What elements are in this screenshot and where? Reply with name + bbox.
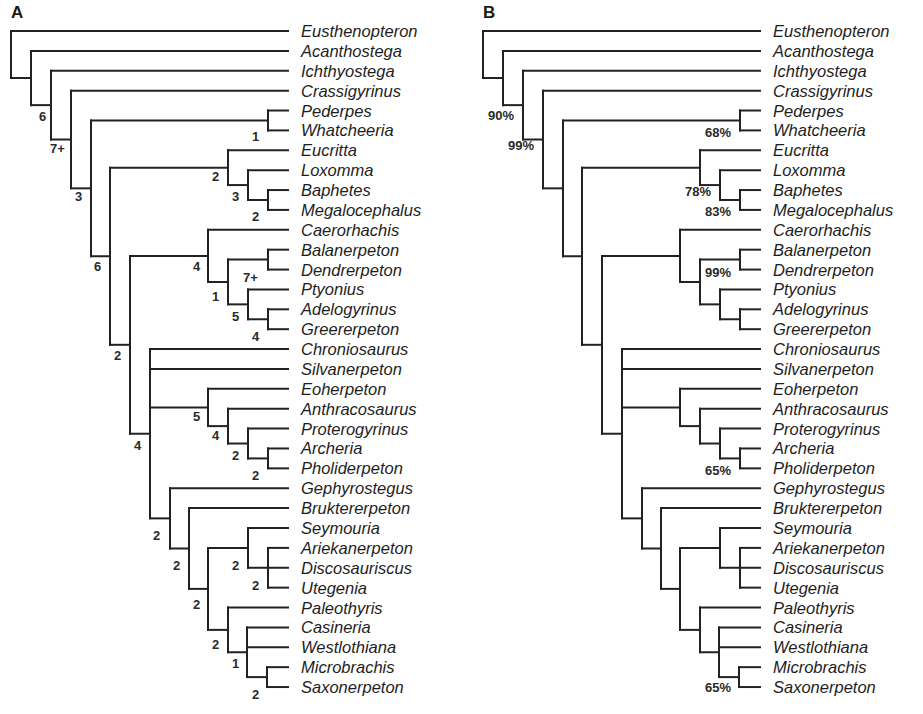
taxon-label: Discosauriscus — [301, 559, 412, 577]
taxon-label: Eucritta — [301, 141, 357, 159]
taxon-label: Westlothiana — [773, 638, 868, 656]
taxon-label: Baphetes — [773, 181, 843, 199]
taxon-label: Dendrerpeton — [773, 261, 874, 279]
taxon-label: Greererpeton — [301, 320, 399, 338]
taxon-label: Paleothyris — [773, 599, 855, 617]
taxon-label: Loxomma — [301, 161, 373, 179]
taxon-label: Silvanerpeton — [301, 360, 402, 378]
taxon-label: Ariekanerpeton — [300, 539, 413, 557]
taxon-label: Discosauriscus — [773, 559, 884, 577]
taxon-label: Casineria — [773, 618, 843, 636]
taxon-label: Caerorhachis — [301, 221, 399, 239]
phylogeny-figure: AEusthenopteronAcanthostegaIchthyostegaC… — [0, 0, 923, 714]
bremer-support-label: 2 — [252, 209, 259, 224]
support-values: 90%99%68%78%83%99%65%65% — [488, 108, 731, 695]
taxon-label: Eusthenopteron — [301, 22, 418, 40]
taxon-label: Pederpes — [773, 102, 844, 120]
bremer-support-label: 2 — [252, 468, 259, 483]
bremer-support-label: 7+ — [50, 141, 65, 156]
bremer-support-label: 2 — [173, 558, 180, 573]
bremer-support-label: 2 — [212, 637, 219, 652]
taxon-label: Adelogyrinus — [772, 300, 868, 318]
taxon-label: Ptyonius — [773, 280, 836, 298]
bremer-support-label: 3 — [232, 189, 239, 204]
panel-letter: B — [483, 3, 495, 22]
bremer-support-label: 4 — [134, 438, 142, 453]
bremer-support-label: 5 — [193, 409, 200, 424]
taxon-label: Archeria — [772, 439, 834, 457]
bremer-support-label: 2 — [252, 687, 259, 702]
taxon-label: Paleothyris — [301, 599, 383, 617]
taxon-label: Pederpes — [301, 102, 372, 120]
taxon-label: Anthracosaurus — [300, 400, 417, 418]
taxon-label: Seymouria — [301, 519, 380, 537]
bremer-support-label: 1 — [232, 656, 239, 671]
taxon-label: Chroniosaurus — [773, 340, 880, 358]
taxon-label: Ptyonius — [301, 280, 364, 298]
taxon-label: Seymouria — [773, 519, 852, 537]
bremer-support-label: 5 — [232, 309, 239, 324]
bremer-support-label: 6 — [39, 109, 46, 124]
taxon-label: Eusthenopteron — [773, 22, 890, 40]
bremer-support-label: 3 — [75, 189, 82, 204]
taxon-label: Ariekanerpeton — [772, 539, 885, 557]
taxon-label: Caerorhachis — [773, 221, 871, 239]
taxon-label: Baphetes — [301, 181, 371, 199]
bootstrap-support-label: 90% — [488, 108, 514, 123]
taxon-label: Bruktererpeton — [773, 499, 882, 517]
taxon-label: Proterogyrinus — [301, 420, 408, 438]
taxon-label: Ichthyostega — [301, 62, 395, 80]
bremer-support-label: 2 — [232, 558, 239, 573]
taxon-label: Ichthyostega — [773, 62, 867, 80]
taxon-label: Adelogyrinus — [300, 300, 396, 318]
taxon-label: Gephyrostegus — [773, 479, 885, 497]
bootstrap-support-label: 65% — [705, 680, 731, 695]
taxon-label: Proterogyrinus — [773, 420, 880, 438]
taxon-label: Loxomma — [773, 161, 845, 179]
taxon-label: Eucritta — [773, 141, 829, 159]
taxon-label: Casineria — [301, 618, 371, 636]
bootstrap-support-label: 99% — [705, 265, 731, 280]
taxon-label: Saxonerpeton — [773, 678, 876, 696]
taxon-label: Crassigyrinus — [301, 82, 401, 100]
taxon-label: Whatcheeria — [773, 121, 866, 139]
taxon-label: Eoherpeton — [773, 380, 858, 398]
taxon-label: Microbrachis — [301, 658, 395, 676]
bremer-support-label: 2 — [114, 348, 121, 363]
taxon-labels: EusthenopteronAcanthostegaIchthyostegaCr… — [300, 22, 421, 696]
taxon-label: Balanerpeton — [301, 241, 399, 259]
bootstrap-support-label: 68% — [705, 125, 731, 140]
taxon-label: Balanerpeton — [773, 241, 871, 259]
bremer-support-label: 1 — [212, 289, 219, 304]
bremer-support-label: 4 — [193, 259, 201, 274]
taxon-label: Greererpeton — [773, 320, 871, 338]
taxon-label: Archeria — [300, 439, 362, 457]
taxon-label: Silvanerpeton — [773, 360, 874, 378]
taxon-label: Whatcheeria — [301, 121, 394, 139]
taxon-label: Gephyrostegus — [301, 479, 413, 497]
taxon-label: Crassigyrinus — [773, 82, 873, 100]
bremer-support-label: 2 — [252, 578, 259, 593]
bremer-support-label: 7+ — [243, 270, 258, 285]
bootstrap-support-label: 99% — [508, 138, 534, 153]
taxon-label: Megalocephalus — [773, 201, 893, 219]
taxon-label: Chroniosaurus — [301, 340, 408, 358]
panel-a-bremer-tree: AEusthenopteronAcanthostegaIchthyostegaC… — [11, 3, 421, 702]
branches — [11, 31, 288, 687]
taxon-label: Pholiderpeton — [301, 459, 403, 477]
bremer-support-label: 2 — [212, 169, 219, 184]
bremer-support-label: 2 — [232, 448, 239, 463]
taxon-label: Bruktererpeton — [301, 499, 410, 517]
taxon-label: Westlothiana — [301, 638, 396, 656]
taxon-label: Acanthostega — [772, 42, 874, 60]
bootstrap-support-label: 65% — [705, 463, 731, 478]
bremer-support-label: 4 — [212, 428, 220, 443]
bootstrap-support-label: 78% — [685, 184, 711, 199]
taxon-label: Anthracosaurus — [772, 400, 889, 418]
taxon-label: Acanthostega — [300, 42, 402, 60]
taxon-label: Megalocephalus — [301, 201, 421, 219]
taxon-label: Microbrachis — [773, 658, 867, 676]
bremer-support-label: 6 — [94, 259, 101, 274]
taxon-label: Pholiderpeton — [773, 459, 875, 477]
bootstrap-support-label: 83% — [705, 204, 731, 219]
